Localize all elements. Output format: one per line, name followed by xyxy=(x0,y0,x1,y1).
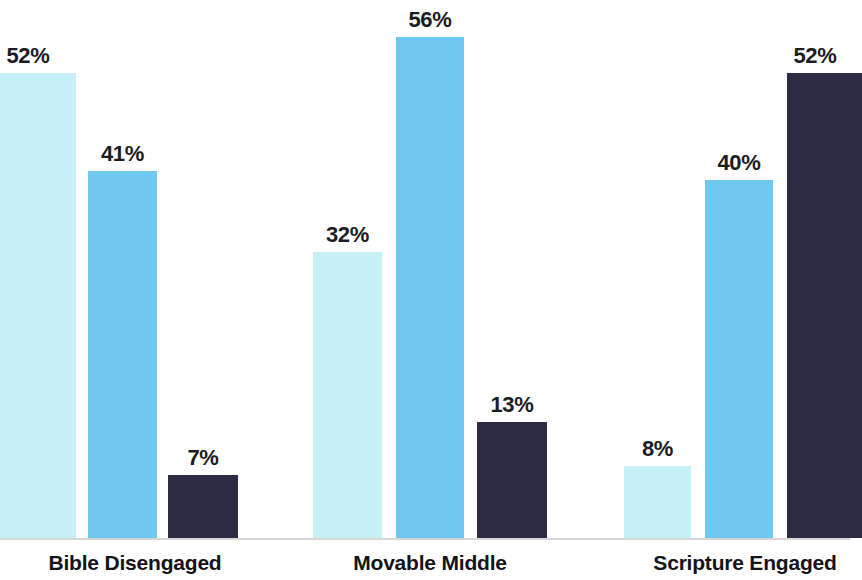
bar-value-label: 40% xyxy=(717,152,760,174)
bar-value-label: 52% xyxy=(793,45,836,67)
bar-value-label: 13% xyxy=(490,394,533,416)
bar-value-label: 41% xyxy=(101,143,144,165)
bar-rect xyxy=(396,37,464,538)
category-label: Bible Disengaged xyxy=(48,552,221,573)
bar: 13% xyxy=(477,422,547,538)
bar: 56% xyxy=(396,37,464,538)
bar-value-label: 8% xyxy=(642,438,673,460)
bar-rect xyxy=(705,180,773,538)
bar-rect xyxy=(787,73,862,538)
bar: 8% xyxy=(624,466,691,538)
bar: 7% xyxy=(168,475,238,538)
bar: 40% xyxy=(705,180,773,538)
bar-value-label: 56% xyxy=(408,9,451,31)
bar: 52% xyxy=(787,73,862,538)
bar-value-label: 7% xyxy=(187,447,218,469)
bar-value-label: 32% xyxy=(326,224,369,246)
bar-rect xyxy=(313,252,382,538)
bar-rect xyxy=(624,466,691,538)
bar: 41% xyxy=(88,171,157,538)
bar-rect xyxy=(0,73,76,538)
bar-rect xyxy=(88,171,157,538)
bar-value-label: 52% xyxy=(6,45,49,67)
plot-area: 52%41%7%32%56%13%8%40%52% xyxy=(0,0,850,538)
baseline-rule xyxy=(0,538,850,540)
category-label: Movable Middle xyxy=(353,552,507,573)
bar-rect xyxy=(477,422,547,538)
bar: 52% xyxy=(0,73,76,538)
bar: 32% xyxy=(313,252,382,538)
category-label: Scripture Engaged xyxy=(653,552,836,573)
bar-rect xyxy=(168,475,238,538)
